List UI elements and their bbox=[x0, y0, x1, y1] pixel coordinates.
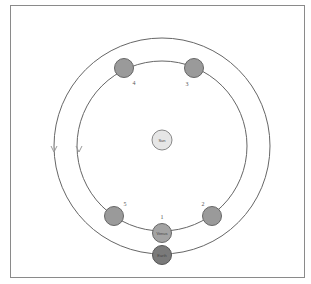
earth-label: Earth bbox=[157, 253, 167, 258]
position-3-label: 3 bbox=[186, 81, 189, 87]
venus-position-2: 2 bbox=[202, 201, 222, 226]
earth: Earth bbox=[153, 246, 172, 265]
venus-position-1: 1 bbox=[161, 214, 164, 220]
sun: Sun bbox=[152, 130, 172, 150]
position-2-label: 2 bbox=[202, 201, 205, 207]
position-5-label: 5 bbox=[124, 201, 127, 207]
venus-position-3: 3 bbox=[185, 59, 204, 88]
solar-system-diagram: Sun 4 3 5 2 1 Venus Earth bbox=[0, 0, 311, 284]
venus: Venus bbox=[153, 224, 172, 243]
position-4-label: 4 bbox=[133, 80, 136, 86]
venus-position-4: 4 bbox=[115, 59, 136, 87]
position-1-label: 1 bbox=[161, 214, 164, 220]
venus-label: Venus bbox=[156, 231, 167, 236]
sun-label: Sun bbox=[158, 138, 165, 143]
